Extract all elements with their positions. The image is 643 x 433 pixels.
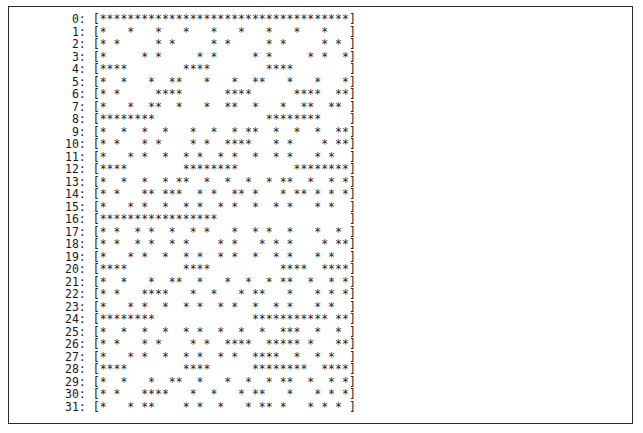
output-frame: 0: [************************************… bbox=[8, 6, 633, 424]
row-index-label: 31: bbox=[65, 400, 93, 414]
row-cells: [* * ** * * * * ** * * * * ] bbox=[93, 400, 356, 414]
ascii-grid-output: 0: [************************************… bbox=[65, 13, 356, 414]
grid-row: 31: [* * ** * * * * ** * * * * ] bbox=[65, 401, 356, 414]
